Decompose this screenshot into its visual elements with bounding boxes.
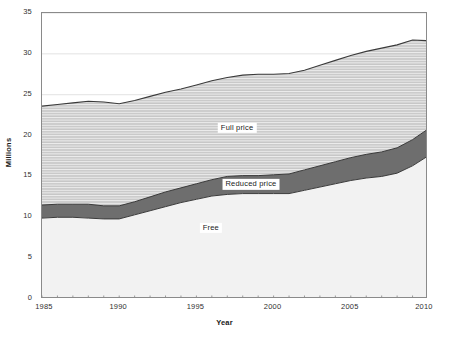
y-axis-title: Millions xyxy=(4,123,13,183)
x-tick-label: 1985 xyxy=(35,302,53,311)
y-tick-label: 10 xyxy=(0,211,32,220)
series-label-free: Free xyxy=(200,223,222,233)
y-tick-label: 30 xyxy=(0,48,32,57)
series-label-full-price: Full price xyxy=(218,123,256,133)
x-axis-title: Year xyxy=(0,318,449,327)
chart-figure: 05101520253035 Millions 1985199019952000… xyxy=(0,0,449,339)
y-tick-label: 5 xyxy=(0,252,32,261)
x-tick-label: 1995 xyxy=(187,302,205,311)
x-axis-tick-labels: 198519901995200020052010 xyxy=(0,302,449,318)
x-tick-label: 2000 xyxy=(264,302,282,311)
area-chart-canvas xyxy=(42,13,426,297)
x-tick-label: 1990 xyxy=(109,302,127,311)
y-tick-label: 25 xyxy=(0,89,32,98)
plot-area xyxy=(41,12,427,298)
y-tick-label: 35 xyxy=(0,7,32,16)
x-tick-label: 2010 xyxy=(415,302,433,311)
y-tick-label: 0 xyxy=(0,293,32,302)
series-label-reduced-price: Reduced price xyxy=(222,179,279,189)
x-tick-label: 2005 xyxy=(341,302,359,311)
